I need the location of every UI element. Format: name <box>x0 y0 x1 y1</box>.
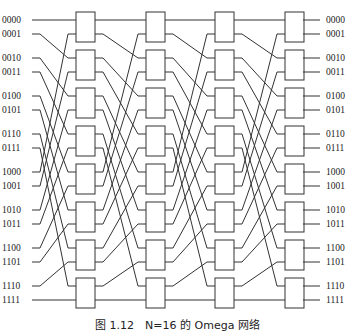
input-label: 0001 <box>2 29 21 39</box>
switch-box <box>285 278 304 308</box>
switch-box <box>76 50 95 80</box>
switch-box <box>146 88 165 118</box>
output-label: 0100 <box>326 91 345 101</box>
switch-box <box>146 164 165 194</box>
output-label: 1101 <box>326 257 345 267</box>
switch-box <box>215 50 234 80</box>
output-label: 1000 <box>326 167 345 177</box>
input-label: 0100 <box>2 91 21 101</box>
switch-box <box>76 240 95 270</box>
input-label: 1110 <box>2 281 20 291</box>
switch-box <box>285 126 304 156</box>
input-label: 1101 <box>2 257 21 267</box>
switch-box <box>215 164 234 194</box>
input-label: 1010 <box>2 205 21 215</box>
input-label: 1001 <box>2 181 21 191</box>
switch-box <box>76 202 95 232</box>
switch-box <box>285 50 304 80</box>
connection-wire <box>173 224 207 262</box>
connection-wire <box>40 34 68 172</box>
connection-wire <box>242 262 277 286</box>
figure-caption: 图 1.12 N=16 的 Omega 网络 <box>0 316 355 332</box>
switch-box <box>285 88 304 118</box>
input-label: 1011 <box>2 219 21 229</box>
connection-wire <box>40 72 68 186</box>
output-label: 0111 <box>326 143 344 153</box>
input-label: 0010 <box>2 53 21 63</box>
output-label: 0001 <box>326 29 345 39</box>
input-label: 1100 <box>2 243 21 253</box>
switch-box <box>76 164 95 194</box>
switch-box <box>76 88 95 118</box>
switch-box <box>146 50 165 80</box>
connection-wire <box>103 72 138 186</box>
switch-box <box>285 240 304 270</box>
connection-wire <box>173 72 207 186</box>
connection-wire <box>103 34 138 172</box>
switch-box <box>215 278 234 308</box>
output-label: 1111 <box>326 295 344 305</box>
output-label: 1110 <box>326 281 344 291</box>
switch-box <box>146 240 165 270</box>
input-label: 0011 <box>2 67 21 77</box>
switch-box <box>215 126 234 156</box>
connection-wire <box>173 262 207 286</box>
switch-box <box>146 202 165 232</box>
input-label: 0110 <box>2 129 21 139</box>
output-label: 0101 <box>326 105 345 115</box>
switch-box <box>76 126 95 156</box>
switch-box <box>285 202 304 232</box>
output-label: 1100 <box>326 243 345 253</box>
output-label: 1011 <box>326 219 345 229</box>
connection-wire <box>242 34 277 172</box>
input-label: 0000 <box>2 15 21 25</box>
connection-wire <box>103 224 138 262</box>
switch-box <box>285 164 304 194</box>
switch-box <box>285 12 304 42</box>
input-label: 0101 <box>2 105 21 115</box>
connection-wire <box>173 34 207 172</box>
switch-box <box>146 126 165 156</box>
input-label: 1111 <box>2 295 20 305</box>
output-label: 0011 <box>326 67 345 77</box>
connection-wire <box>242 224 277 262</box>
switch-box <box>215 88 234 118</box>
connection-wire <box>40 224 68 262</box>
connection-wire <box>103 262 138 286</box>
switch-box <box>76 278 95 308</box>
switch-box <box>76 12 95 42</box>
switch-box <box>215 202 234 232</box>
switch-box <box>215 12 234 42</box>
output-label: 0010 <box>326 53 345 63</box>
output-label: 0110 <box>326 129 345 139</box>
switch-box <box>215 240 234 270</box>
connection-wire <box>242 72 277 186</box>
output-label: 1001 <box>326 181 345 191</box>
switch-box <box>146 12 165 42</box>
output-label: 1010 <box>326 205 345 215</box>
input-label: 1000 <box>2 167 21 177</box>
output-label: 0000 <box>326 15 345 25</box>
connection-wire <box>40 262 68 286</box>
input-label: 0111 <box>2 143 20 153</box>
switch-box <box>146 278 165 308</box>
